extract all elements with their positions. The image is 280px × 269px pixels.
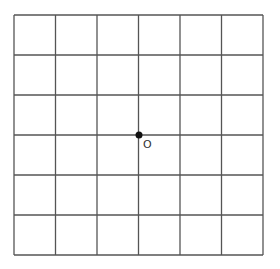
origin-label: O [143,138,152,151]
origin-point [136,132,143,139]
coordinate-grid-diagram: O [0,0,280,269]
